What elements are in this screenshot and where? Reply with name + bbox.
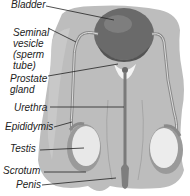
label-seminal-vesicle-line-3: (sperm [13,49,49,60]
label-seminal-vesicle-line-2: vesicle [13,38,49,49]
testis-right [150,128,178,168]
label-bladder: Bladder [11,0,45,10]
label-scrotum: Scrotum [3,165,40,176]
label-penis: Penis [16,179,41,190]
label-prostate-gland-line-1: Prostate [10,73,47,84]
label-prostate-gland-line-2: gland [10,84,47,95]
label-prostate-gland: Prostate gland [10,73,47,95]
label-seminal-vesicle: Seminal vesicle (sperm tube) [13,27,49,71]
testis-left [72,126,100,166]
urethra [124,72,127,172]
label-testis: Testis [10,143,36,154]
penis-tip [121,164,129,189]
label-urethra: Urethra [14,102,47,113]
label-epididymis: Epididymis [5,121,53,132]
label-seminal-vesicle-line-1: Seminal [13,27,49,38]
label-seminal-vesicle-line-4: tube) [13,60,49,71]
bladder-highlight [104,15,132,33]
